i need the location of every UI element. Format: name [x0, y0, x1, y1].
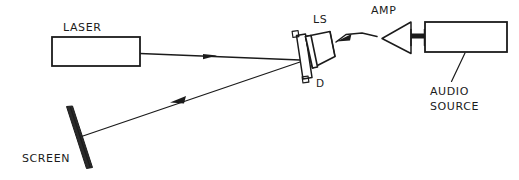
connector-bar	[411, 34, 426, 39]
reflected-beam-line	[80, 62, 300, 137]
incident-beam-line	[140, 54, 300, 61]
audio-source-body	[425, 22, 507, 52]
optics-diagram: LASER SCREEN	[0, 0, 519, 180]
audio-source-label-line2: SOURCE	[430, 100, 479, 113]
diaphragm-label: D	[316, 77, 325, 89]
screen-bar	[67, 106, 93, 169]
audio-source-component: AUDIO SOURCE	[425, 22, 507, 113]
laser-component: LASER	[52, 21, 140, 66]
screen-component: SCREEN	[22, 106, 93, 169]
source-to-amp-connector	[411, 30, 426, 46]
amp-to-speaker-wire	[336, 33, 377, 42]
screen-edge-highlight	[71, 108, 91, 168]
laser-label: LASER	[63, 21, 101, 34]
loudspeaker-label: LS	[313, 13, 327, 26]
screen-label: SCREEN	[22, 152, 70, 165]
diaphragm-tab-top	[292, 31, 299, 38]
audio-source-leader-line	[452, 53, 466, 82]
loudspeaker-component: LS	[306, 13, 336, 68]
diagram-canvas: LASER SCREEN	[0, 0, 519, 180]
incident-beam	[140, 54, 300, 61]
audio-source-label-line1: AUDIO	[430, 85, 469, 98]
laser-body	[52, 37, 140, 66]
amplifier-triangle	[382, 22, 411, 54]
amplifier-label: AMP	[371, 4, 396, 17]
reflected-beam	[80, 62, 300, 137]
reflected-beam-arrowhead	[170, 96, 186, 104]
amplifier-component: AMP	[371, 4, 411, 54]
